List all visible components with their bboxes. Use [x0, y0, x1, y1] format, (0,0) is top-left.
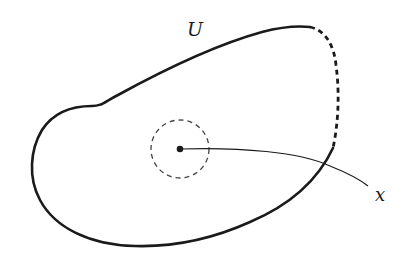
- region-label: U: [187, 18, 204, 40]
- region-boundary-solid: [32, 27, 333, 247]
- path-label: x: [375, 184, 385, 205]
- diagram-canvas: U x: [0, 0, 415, 259]
- path-curve: [180, 149, 368, 186]
- region-boundary-dashed: [310, 27, 338, 148]
- interior-point: [177, 146, 184, 153]
